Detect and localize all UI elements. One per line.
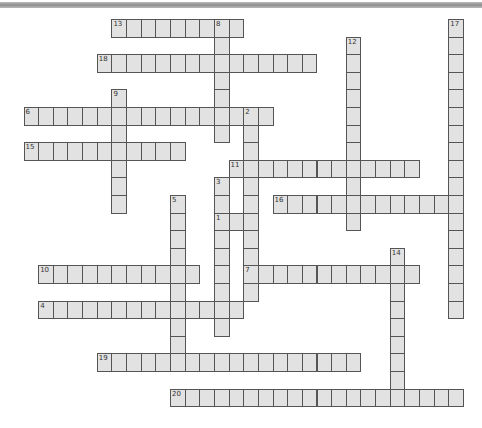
crossword-cell[interactable] xyxy=(243,160,259,179)
crossword-cell[interactable] xyxy=(331,195,347,214)
crossword-cell[interactable] xyxy=(67,265,83,284)
crossword-cell[interactable] xyxy=(170,54,186,73)
crossword-cell[interactable] xyxy=(53,142,69,161)
crossword-cell[interactable] xyxy=(390,195,406,214)
crossword-cell[interactable] xyxy=(214,248,230,267)
crossword-cell[interactable] xyxy=(229,301,245,320)
crossword-cell[interactable] xyxy=(82,107,98,126)
crossword-cell[interactable] xyxy=(82,301,98,320)
crossword-cell[interactable] xyxy=(448,125,464,144)
crossword-cell[interactable] xyxy=(375,389,391,408)
crossword-cell[interactable] xyxy=(170,318,186,337)
crossword-cell[interactable]: 6 xyxy=(24,107,40,126)
crossword-cell[interactable] xyxy=(448,283,464,302)
crossword-cell[interactable] xyxy=(170,248,186,267)
crossword-cell[interactable] xyxy=(287,160,303,179)
crossword-cell[interactable] xyxy=(126,107,142,126)
crossword-cell[interactable] xyxy=(448,160,464,179)
crossword-cell[interactable] xyxy=(302,54,318,73)
crossword-cell[interactable] xyxy=(404,265,420,284)
crossword-cell[interactable] xyxy=(141,265,157,284)
crossword-cell[interactable] xyxy=(317,389,333,408)
crossword-cell[interactable]: 18 xyxy=(97,54,113,73)
crossword-cell[interactable] xyxy=(243,177,259,196)
crossword-cell[interactable] xyxy=(448,230,464,249)
crossword-cell[interactable] xyxy=(185,265,201,284)
crossword-cell[interactable] xyxy=(155,353,171,372)
crossword-cell[interactable] xyxy=(448,107,464,126)
crossword-cell[interactable] xyxy=(214,107,230,126)
crossword-cell[interactable] xyxy=(214,283,230,302)
crossword-cell[interactable]: 19 xyxy=(97,353,113,372)
crossword-cell[interactable] xyxy=(214,389,230,408)
crossword-cell[interactable] xyxy=(448,213,464,232)
crossword-cell[interactable] xyxy=(126,142,142,161)
crossword-cell[interactable] xyxy=(155,54,171,73)
crossword-cell[interactable] xyxy=(346,177,362,196)
crossword-cell[interactable] xyxy=(141,353,157,372)
crossword-cell[interactable] xyxy=(214,318,230,337)
crossword-cell[interactable] xyxy=(214,54,230,73)
crossword-cell[interactable] xyxy=(185,107,201,126)
crossword-cell[interactable] xyxy=(170,336,186,355)
crossword-cell[interactable] xyxy=(243,142,259,161)
crossword-cell[interactable]: 7 xyxy=(243,265,259,284)
crossword-cell[interactable] xyxy=(419,195,435,214)
crossword-cell[interactable] xyxy=(390,301,406,320)
crossword-cell[interactable] xyxy=(111,142,127,161)
crossword-cell[interactable] xyxy=(273,353,289,372)
crossword-cell[interactable] xyxy=(375,195,391,214)
crossword-cell[interactable] xyxy=(199,54,215,73)
crossword-cell[interactable] xyxy=(170,283,186,302)
crossword-cell[interactable] xyxy=(243,389,259,408)
crossword-cell[interactable] xyxy=(360,160,376,179)
crossword-cell[interactable] xyxy=(448,248,464,267)
crossword-cell[interactable] xyxy=(287,54,303,73)
crossword-cell[interactable] xyxy=(214,301,230,320)
crossword-cell[interactable] xyxy=(229,353,245,372)
crossword-cell[interactable] xyxy=(53,107,69,126)
crossword-cell[interactable] xyxy=(111,54,127,73)
crossword-cell[interactable] xyxy=(155,301,171,320)
crossword-cell[interactable]: 2 xyxy=(243,107,259,126)
crossword-cell[interactable] xyxy=(302,160,318,179)
crossword-cell[interactable] xyxy=(434,389,450,408)
crossword-cell[interactable] xyxy=(448,195,464,214)
crossword-cell[interactable] xyxy=(434,195,450,214)
crossword-cell[interactable] xyxy=(346,142,362,161)
crossword-cell[interactable] xyxy=(390,160,406,179)
crossword-cell[interactable] xyxy=(287,195,303,214)
crossword-cell[interactable] xyxy=(170,213,186,232)
crossword-cell[interactable] xyxy=(331,160,347,179)
crossword-cell[interactable] xyxy=(258,389,274,408)
crossword-cell[interactable] xyxy=(141,301,157,320)
crossword-cell[interactable] xyxy=(155,265,171,284)
crossword-cell[interactable] xyxy=(346,54,362,73)
crossword-cell[interactable] xyxy=(390,265,406,284)
crossword-cell[interactable] xyxy=(390,336,406,355)
crossword-cell[interactable] xyxy=(287,265,303,284)
crossword-cell[interactable] xyxy=(155,142,171,161)
crossword-cell[interactable] xyxy=(53,265,69,284)
crossword-cell[interactable] xyxy=(404,389,420,408)
crossword-cell[interactable] xyxy=(258,54,274,73)
crossword-cell[interactable]: 17 xyxy=(448,19,464,38)
crossword-cell[interactable] xyxy=(273,160,289,179)
crossword-cell[interactable] xyxy=(448,301,464,320)
crossword-cell[interactable] xyxy=(346,213,362,232)
crossword-cell[interactable]: 14 xyxy=(390,248,406,267)
crossword-cell[interactable] xyxy=(258,160,274,179)
crossword-cell[interactable] xyxy=(448,389,464,408)
crossword-cell[interactable] xyxy=(302,389,318,408)
crossword-cell[interactable] xyxy=(111,195,127,214)
crossword-cell[interactable]: 10 xyxy=(38,265,54,284)
crossword-cell[interactable] xyxy=(97,265,113,284)
crossword-cell[interactable] xyxy=(214,353,230,372)
crossword-cell[interactable] xyxy=(214,230,230,249)
crossword-cell[interactable] xyxy=(360,195,376,214)
crossword-cell[interactable] xyxy=(214,37,230,56)
crossword-cell[interactable] xyxy=(97,107,113,126)
crossword-cell[interactable] xyxy=(346,72,362,91)
crossword-cell[interactable] xyxy=(185,19,201,38)
crossword-cell[interactable] xyxy=(185,301,201,320)
